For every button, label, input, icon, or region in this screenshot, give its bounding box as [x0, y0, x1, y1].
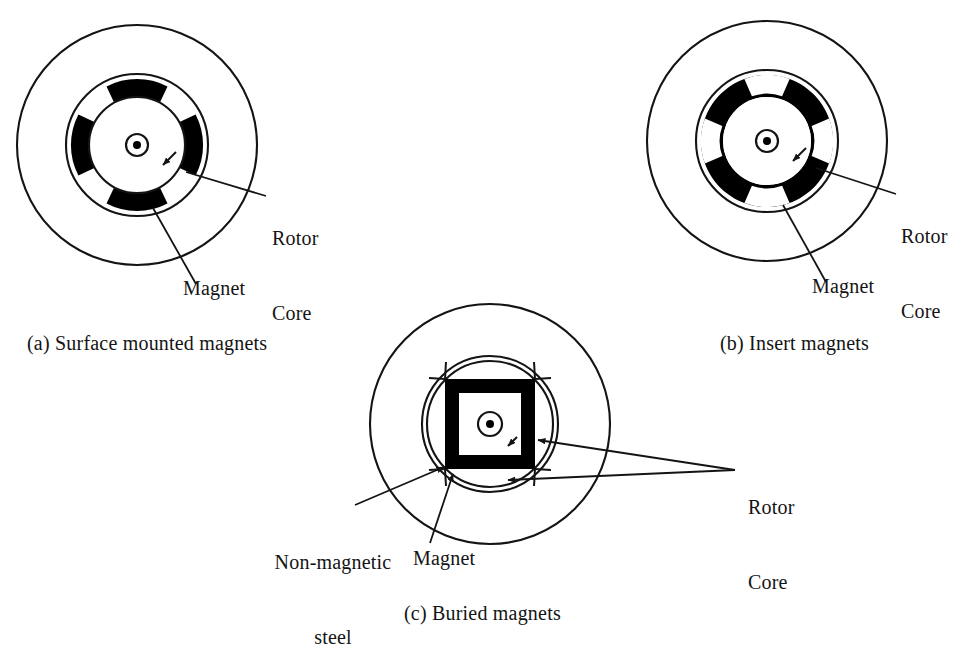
caption-b: (b) Insert magnets [720, 331, 869, 355]
diagram-a-surface-mounted [17, 25, 266, 284]
shaft-axis-dot-b [763, 137, 771, 145]
shaft-axis-dot-a [133, 141, 141, 149]
label-magnet-b: Magnet [812, 274, 874, 299]
label-magnet-c: Magnet [413, 546, 475, 571]
label-rotor-core-a-line2: Core [272, 301, 319, 326]
core-pole-notch-b-top [744, 75, 789, 96]
magnet-bar-c-left [445, 379, 459, 469]
steel-spoke-c-3 [535, 469, 551, 470]
label-non-magnetic-steel-c: Non-magnetic steel [253, 500, 413, 656]
label-magnet-a: Magnet [183, 276, 245, 301]
steel-spoke-c-7 [429, 378, 445, 379]
steel-spoke-c-6 [445, 469, 446, 486]
label-rotor-core-c: Rotor Core [748, 445, 795, 645]
rotor-configurations-diagram [0, 0, 973, 656]
steel-spoke-c-4 [534, 469, 535, 486]
label-rotor-core-b-line2: Core [901, 299, 948, 324]
magnet-bar-c-right [521, 379, 535, 469]
label-rotor-core-a-line1: Rotor [272, 226, 319, 251]
leader-line-c-rotor-core-upper [538, 440, 735, 470]
core-pole-notch-b-bottom [744, 186, 789, 207]
caption-c: (c) Buried magnets [404, 601, 561, 625]
leader-line-a-magnet [153, 208, 196, 284]
label-rotor-core-b: Rotor Core [901, 174, 948, 374]
steel-spoke-c-1 [534, 362, 535, 379]
label-rotor-core-c-line2: Core [748, 570, 795, 595]
leader-line-c-rotor-core-lower [508, 470, 735, 480]
core-pole-notch-b-left [701, 118, 722, 163]
steel-spoke-c-2 [535, 378, 551, 379]
label-rotor-core-b-line1: Rotor [901, 224, 948, 249]
caption-a: (a) Surface mounted magnets [27, 331, 267, 355]
figure-root: Rotor Core Magnet (a) Surface mounted ma… [0, 0, 973, 656]
diagram-b-insert-magnets [647, 21, 896, 282]
shaft-axis-dot-c [486, 420, 494, 428]
label-non-magnetic-steel-c-line2: steel [253, 625, 413, 650]
label-rotor-core-c-line1: Rotor [748, 495, 795, 520]
core-pole-notch-b-right [812, 118, 833, 163]
label-non-magnetic-steel-c-line1: Non-magnetic [253, 550, 413, 575]
label-rotor-core-a: Rotor Core [272, 176, 319, 376]
steel-spoke-c-8 [445, 362, 446, 379]
leader-line-b-magnet [783, 205, 826, 282]
